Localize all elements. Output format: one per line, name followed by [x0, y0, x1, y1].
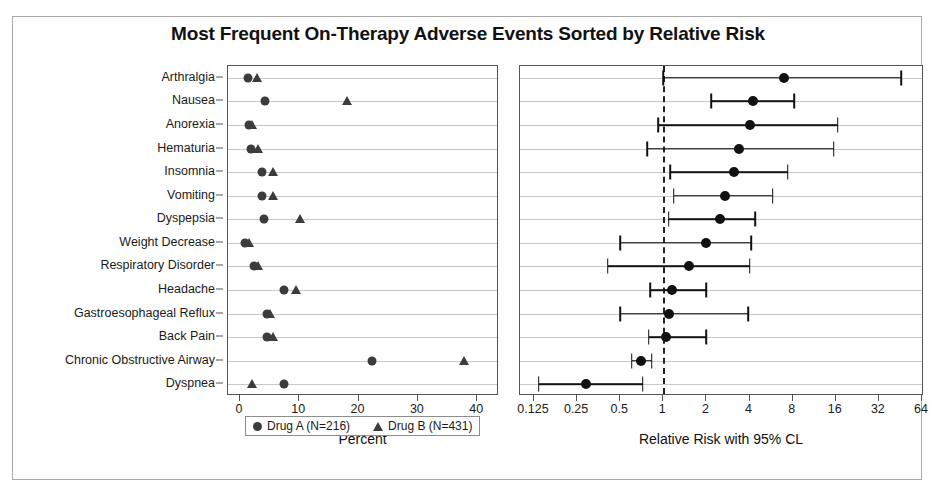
gridline	[228, 290, 497, 291]
gridline	[228, 266, 497, 267]
confidence-interval-cap-upper	[793, 94, 795, 109]
relative-risk-point	[734, 144, 744, 154]
category-label: Dyspnea	[166, 376, 215, 390]
drug-b-marker	[265, 309, 275, 318]
x-axis-tick	[792, 395, 793, 401]
confidence-interval-cap-lower	[710, 94, 712, 109]
relative-risk-point	[748, 96, 758, 106]
chart-title: Most Frequent On-Therapy Adverse Events …	[13, 23, 923, 45]
legend: Drug A (N=216)Drug B (N=431)	[245, 416, 480, 436]
category-label: Weight Decrease	[119, 235, 215, 249]
confidence-interval-line	[649, 336, 707, 338]
confidence-interval-cap-lower	[619, 235, 621, 250]
x-axis-tick	[417, 395, 418, 401]
gridline	[520, 290, 922, 291]
x-axis-tick-label: 30	[410, 402, 424, 416]
relative-risk-panel	[519, 65, 923, 395]
confidence-interval-cap-lower	[646, 141, 648, 156]
drug-b-marker	[291, 285, 301, 294]
x-axis-tick-label: 0.5	[611, 402, 628, 416]
confidence-interval-cap-upper	[651, 353, 653, 368]
relative-risk-point	[701, 238, 711, 248]
category-label: Chronic Obstructive Airway	[65, 353, 215, 367]
x-axis-tick-label: 0	[236, 402, 243, 416]
x-axis-tick	[358, 395, 359, 401]
x-axis-tick-label: 0.25	[564, 402, 588, 416]
category-label: Gastroesophageal Reflux	[74, 306, 215, 320]
category-tick	[216, 100, 223, 101]
confidence-interval-cap-upper	[706, 282, 708, 297]
category-label: Headache	[158, 282, 215, 296]
category-tick	[216, 194, 223, 195]
category-label: Vomiting	[167, 188, 215, 202]
reference-line-at-1	[663, 66, 665, 394]
drug-a-marker	[257, 191, 266, 200]
confidence-interval-cap-lower	[619, 306, 621, 321]
x-axis-tick-label: 40	[469, 402, 483, 416]
confidence-interval-cap-lower	[648, 330, 650, 345]
relative-risk-axis-title: Relative Risk with 95% CL	[519, 431, 923, 447]
x-axis-tick	[921, 395, 922, 401]
category-tick	[216, 147, 223, 148]
confidence-interval-cap-upper	[772, 188, 774, 203]
legend-item: Drug A (N=216)	[253, 419, 350, 433]
confidence-interval-cap-lower	[631, 353, 633, 368]
x-axis-tick-label: 0.125	[517, 402, 548, 416]
legend-label: Drug B (N=431)	[388, 419, 472, 433]
confidence-interval-cap-lower	[673, 188, 675, 203]
triangle-icon	[373, 422, 383, 431]
drug-b-marker	[247, 379, 257, 388]
confidence-interval-cap-lower	[663, 70, 665, 85]
drug-a-marker	[367, 356, 376, 365]
x-axis-tick-label: 20	[351, 402, 365, 416]
gridline	[520, 337, 922, 338]
percent-panel	[227, 65, 498, 395]
category-label: Back Pain	[159, 329, 215, 343]
category-axis: ArthralgiaNauseaAnorexiaHematuriaInsomni…	[13, 65, 223, 395]
legend-label: Drug A (N=216)	[267, 419, 350, 433]
x-axis-tick	[476, 395, 477, 401]
confidence-interval-cap-upper	[706, 330, 708, 345]
drug-b-marker	[253, 261, 263, 270]
drug-a-marker	[261, 97, 270, 106]
drug-b-marker	[268, 332, 278, 341]
category-tick	[216, 171, 223, 172]
x-axis-tick-label: 10	[291, 402, 305, 416]
category-tick	[216, 359, 223, 360]
category-tick	[216, 123, 223, 124]
confidence-interval-cap-upper	[901, 70, 903, 85]
relative-risk-point	[720, 191, 730, 201]
category-tick	[216, 312, 223, 313]
x-axis-tick	[749, 395, 750, 401]
relative-risk-point	[745, 120, 755, 130]
gridline	[228, 125, 497, 126]
confidence-interval-cap-lower	[657, 117, 659, 132]
gridline	[228, 384, 497, 385]
confidence-interval-cap-upper	[755, 212, 757, 227]
category-label: Respiratory Disorder	[100, 258, 215, 272]
relative-risk-point	[779, 73, 789, 83]
relative-risk-point	[636, 356, 646, 366]
gridline	[228, 361, 497, 362]
category-tick	[216, 288, 223, 289]
figure-frame: Most Frequent On-Therapy Adverse Events …	[12, 16, 922, 480]
confidence-interval-cap-upper	[787, 165, 789, 180]
confidence-interval-cap-upper	[837, 117, 839, 132]
confidence-interval-cap-upper	[747, 306, 749, 321]
gridline	[228, 149, 497, 150]
x-axis-tick	[835, 395, 836, 401]
category-tick	[216, 336, 223, 337]
category-label: Arthralgia	[162, 70, 216, 84]
confidence-interval-cap-lower	[607, 259, 609, 274]
x-axis-tick-label: 8	[788, 402, 795, 416]
category-label: Insomnia	[164, 164, 215, 178]
category-tick	[216, 265, 223, 266]
x-axis-tick-label: 32	[871, 402, 885, 416]
confidence-interval-cap-lower	[670, 165, 672, 180]
gridline	[520, 361, 922, 362]
relative-risk-point	[581, 379, 591, 389]
drug-b-marker	[459, 356, 469, 365]
drug-b-marker	[244, 238, 254, 247]
drug-b-marker	[247, 120, 257, 129]
category-label: Dyspepsia	[157, 211, 215, 225]
